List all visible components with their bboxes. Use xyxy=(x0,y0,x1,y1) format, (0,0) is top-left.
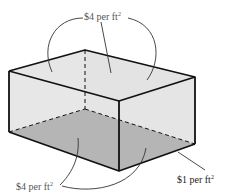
box-diagram: $4 per ft2 $4 per ft2 $1 per ft2 xyxy=(0,0,228,194)
label-bottom-right: $1 per ft2 xyxy=(177,174,214,185)
label-top: $4 per ft2 xyxy=(84,11,121,22)
label-bottom-left: $4 per ft2 xyxy=(16,181,53,192)
